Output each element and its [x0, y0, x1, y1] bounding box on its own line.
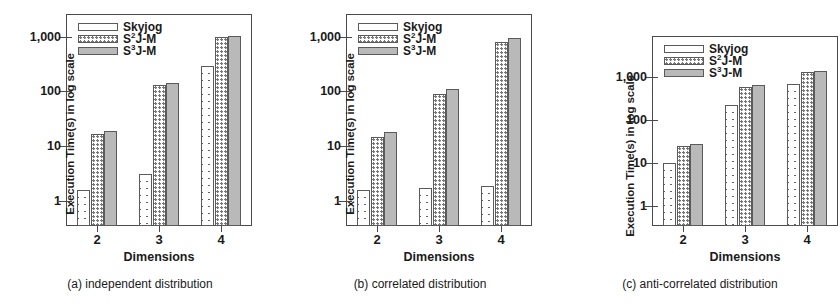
y-tick-inner-a-0 — [66, 201, 72, 202]
y-tick-label-b-2: 100 — [320, 85, 341, 98]
bar-group-a-4 — [201, 14, 241, 226]
legend-row-a-S2J-M: S2J-M — [78, 33, 162, 44]
bar-c-3-S2J-M — [739, 87, 752, 226]
legend-label-b-S3J-M: S3J-M — [403, 44, 436, 57]
y-tick-label-b-0: 1 — [334, 195, 341, 208]
bar-c-2-S3J-M — [690, 144, 703, 226]
y-tick-label-a-3: 1,000 — [30, 30, 61, 43]
panel-a: Execution Time(s) in log scale 1101001,0… — [0, 0, 280, 307]
y-tick-label-c-0: 1 — [640, 200, 647, 213]
y-axis-label-b: Execution Time(s) in log scale — [342, 28, 358, 240]
panel-c: Execution Time(s) in log scale 1101001,0… — [560, 0, 840, 307]
y-tick-label-c-2: 100 — [626, 114, 647, 127]
y-tick-inner-b-1 — [346, 146, 352, 147]
y-tick-label-a-2: 100 — [40, 85, 61, 98]
bar-c-2-Skyjog — [663, 163, 676, 226]
bar-b-3-S3J-M — [446, 89, 459, 226]
bar-c-2-S2J-M — [677, 146, 690, 226]
caption-a: (a) independent distribution — [0, 277, 280, 291]
x-tick-label-c-3: 3 — [741, 233, 748, 246]
legend-swatch-skyjog-icon — [664, 45, 704, 53]
caption-b: (b) correlated distribution — [280, 277, 560, 291]
x-tick-label-a-2: 2 — [93, 233, 100, 246]
x-axis-label-b: Dimensions — [346, 250, 532, 264]
x-axis-label-a: Dimensions — [66, 250, 252, 264]
bar-c-3-S3J-M — [752, 85, 765, 226]
legend-swatch-s2j-m-icon — [358, 35, 398, 43]
panel-b: Execution Time(s) in log scale 1101001,0… — [280, 0, 560, 307]
y-tick-inner-a-3 — [66, 37, 72, 38]
bar-b-3-Skyjog — [419, 188, 432, 226]
y-tick-inner-b-3 — [346, 37, 352, 38]
legend-label-a-Skyjog: Skyjog — [123, 21, 162, 33]
x-tick-label-c-4: 4 — [803, 233, 810, 246]
y-tick-inner-c-1 — [652, 163, 658, 164]
x-tick-label-a-3: 3 — [155, 233, 162, 246]
legend-row-a-Skyjog: Skyjog — [78, 21, 162, 32]
legend-row-b-Skyjog: Skyjog — [358, 21, 442, 32]
bar-b-2-Skyjog — [357, 190, 370, 226]
y-tick-inner-c-2 — [652, 120, 658, 121]
y-tick-inner-a-2 — [66, 91, 72, 92]
legend-label-a-S3J-M: S3J-M — [123, 44, 156, 57]
y-tick-inner-a-1 — [66, 146, 72, 147]
legend-row-c-Skyjog: Skyjog — [664, 43, 748, 54]
legend-a: SkyjogS2J-MS3J-M — [78, 21, 162, 56]
y-tick-inner-b-0 — [346, 201, 352, 202]
y-tick-label-a-1: 10 — [47, 140, 61, 153]
y-tick-label-c-1: 10 — [633, 157, 647, 170]
bar-a-3-S3J-M — [166, 83, 179, 226]
legend-row-b-S2J-M: S2J-M — [358, 33, 442, 44]
bar-b-2-S3J-M — [384, 132, 397, 226]
bar-c-4-S2J-M — [801, 72, 814, 226]
legend-swatch-s3j-m-icon — [78, 47, 118, 55]
bar-c-3-Skyjog — [725, 105, 738, 226]
bar-c-4-S3J-M — [814, 71, 827, 226]
y-axis-label-a: Execution Time(s) in log scale — [62, 28, 78, 240]
y-tick-label-a-0: 1 — [54, 195, 61, 208]
y-tick-label-b-3: 1,000 — [310, 30, 341, 43]
figure-bar-charts: Execution Time(s) in log scale 1101001,0… — [0, 0, 840, 307]
bar-a-2-Skyjog — [77, 190, 90, 226]
x-axis-label-c: Dimensions — [652, 250, 838, 264]
plot-area-a: Execution Time(s) in log scale 1101001,0… — [66, 14, 252, 226]
bar-a-4-Skyjog — [201, 66, 214, 226]
bar-a-3-Skyjog — [139, 174, 152, 226]
legend-swatch-s3j-m-icon — [664, 69, 704, 77]
plot-area-c: Execution Time(s) in log scale 1101001,0… — [652, 36, 838, 226]
legend-swatch-skyjog-icon — [78, 23, 118, 31]
legend-row-b-S3J-M: S3J-M — [358, 45, 442, 56]
bar-b-4-S3J-M — [508, 38, 521, 226]
bar-a-4-S2J-M — [215, 37, 228, 226]
legend-row-c-S2J-M: S2J-M — [664, 55, 748, 66]
bar-group-c-4 — [787, 36, 827, 226]
legend-label-c-Skyjog: Skyjog — [709, 43, 748, 55]
y-tick-inner-c-3 — [652, 77, 658, 78]
x-tick-label-b-2: 2 — [373, 233, 380, 246]
x-tick-label-b-4: 4 — [497, 233, 504, 246]
bar-group-b-4 — [481, 14, 521, 226]
bar-a-3-S2J-M — [153, 85, 166, 226]
legend-swatch-s2j-m-icon — [78, 35, 118, 43]
x-tick-label-c-2: 2 — [679, 233, 686, 246]
legend-c: SkyjogS2J-MS3J-M — [664, 43, 748, 78]
bar-b-2-S2J-M — [371, 137, 384, 226]
legend-label-c-S3J-M: S3J-M — [709, 66, 742, 79]
bar-c-4-Skyjog — [787, 84, 800, 226]
bar-a-4-S3J-M — [228, 36, 241, 226]
x-tick-label-b-3: 3 — [435, 233, 442, 246]
bar-b-4-Skyjog — [481, 186, 494, 226]
caption-c: (c) anti-correlated distribution — [560, 277, 840, 291]
legend-swatch-skyjog-icon — [358, 23, 398, 31]
y-tick-label-b-1: 10 — [327, 140, 341, 153]
plot-area-b: Execution Time(s) in log scale 1101001,0… — [346, 14, 532, 226]
bar-a-2-S2J-M — [91, 134, 104, 226]
bar-b-3-S2J-M — [433, 94, 446, 226]
y-tick-inner-b-2 — [346, 91, 352, 92]
bar-b-4-S2J-M — [495, 42, 508, 226]
x-tick-label-a-4: 4 — [217, 233, 224, 246]
bar-a-2-S3J-M — [104, 131, 117, 226]
legend-swatch-s2j-m-icon — [664, 57, 704, 65]
legend-row-a-S3J-M: S3J-M — [78, 45, 162, 56]
y-tick-inner-c-0 — [652, 206, 658, 207]
